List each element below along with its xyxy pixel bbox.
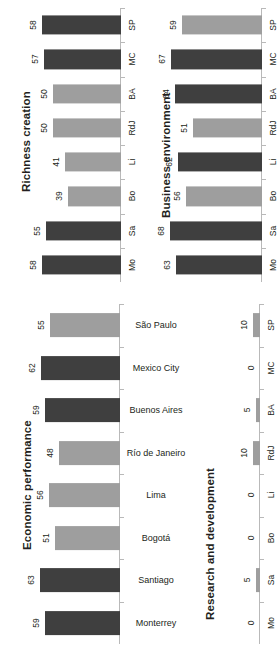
axis-tick xyxy=(262,8,266,9)
bar xyxy=(45,611,120,635)
category-label: Lima xyxy=(146,490,166,500)
bar-value-label: 58 xyxy=(28,20,38,29)
axis-tick xyxy=(120,304,124,305)
bar-value-label: 41 xyxy=(51,157,61,166)
bar xyxy=(45,398,120,422)
category-label: Bogotá xyxy=(142,533,171,543)
bar xyxy=(193,118,262,137)
bar-value-label: 59 xyxy=(31,618,41,627)
bar-value-label: 68 xyxy=(156,226,166,235)
category-label: BA xyxy=(127,88,137,99)
bar xyxy=(46,221,121,240)
axis-tick xyxy=(120,559,124,560)
axis-tick xyxy=(262,111,266,112)
axis-tick xyxy=(260,389,264,390)
panel-richness-creation: Richness creation 58SP57MC50BA50RdJ41Li3… xyxy=(0,0,139,290)
bar xyxy=(68,187,121,206)
bar xyxy=(42,16,121,35)
axis-tick xyxy=(120,602,124,603)
bar-value-label: 50 xyxy=(39,89,49,98)
axis-tick xyxy=(120,347,124,348)
category-label: Mo xyxy=(127,259,137,271)
bar xyxy=(42,255,121,274)
category-label: Bo xyxy=(127,191,137,201)
axis-tick xyxy=(260,474,264,475)
plot-business-environment: 59SP67MC64BA51RdJ62Li56Bo68Sa63Mo xyxy=(163,8,262,282)
axis-tick xyxy=(121,214,125,215)
axis-tick xyxy=(120,389,124,390)
axis-tick xyxy=(120,432,124,433)
category-label: Sa xyxy=(266,575,276,585)
category-label: BA xyxy=(266,405,276,416)
bar-row xyxy=(206,313,260,337)
category-label: Sa xyxy=(268,225,278,235)
bar xyxy=(65,153,121,172)
category-label: SP xyxy=(127,19,137,30)
category-label: Bo xyxy=(268,191,278,201)
bar-value-label: 56 xyxy=(172,192,182,201)
category-label: RdJ xyxy=(266,445,276,460)
bar xyxy=(40,568,120,592)
bar xyxy=(50,313,120,337)
axis-tick xyxy=(121,248,125,249)
bar-value-label: 10 xyxy=(239,448,249,457)
axis-tick xyxy=(121,145,125,146)
bar-value-label: 59 xyxy=(168,20,178,29)
bar-row xyxy=(27,441,120,465)
category-label: MC xyxy=(268,53,278,66)
bar-value-label: 63 xyxy=(26,576,36,585)
bar-row xyxy=(22,118,121,137)
bar-value-label: 64 xyxy=(161,89,171,98)
panel-research-and-development: Research and development 10SP0MC5BA10RdJ… xyxy=(190,290,278,663)
bar xyxy=(175,84,262,103)
bar xyxy=(253,441,260,465)
bar-row xyxy=(163,50,262,69)
bar-value-label: 55 xyxy=(32,226,42,235)
bar xyxy=(49,483,120,507)
category-label: RdJ xyxy=(127,120,137,135)
bar-value-label: 0 xyxy=(246,620,256,625)
bar-value-label: 10 xyxy=(239,321,249,330)
bar-row xyxy=(22,84,121,103)
axis-tick xyxy=(260,347,264,348)
bar xyxy=(44,50,121,69)
panel-business-environment: Business environment 59SP67MC64BA51RdJ62… xyxy=(139,0,278,290)
bar-row xyxy=(22,153,121,172)
bar xyxy=(182,16,262,35)
bar-value-label: 0 xyxy=(246,493,256,498)
bar xyxy=(256,568,260,592)
bar-row xyxy=(206,441,260,465)
category-label: Mo xyxy=(268,259,278,271)
axis-tick xyxy=(262,179,266,180)
bar-value-label: 63 xyxy=(162,260,172,269)
axis-tick xyxy=(121,179,125,180)
figure-root: Richness creation 58SP57MC50BA50RdJ41Li3… xyxy=(0,0,278,663)
axis-tick xyxy=(260,304,264,305)
axis-tick xyxy=(260,517,264,518)
axis-tick xyxy=(260,559,264,560)
bar-value-label: 62 xyxy=(27,363,37,372)
bar xyxy=(55,526,120,550)
category-label: SP xyxy=(266,320,276,331)
category-label: Monterrey xyxy=(136,618,177,628)
bar xyxy=(171,50,262,69)
category-label: Mo xyxy=(266,617,276,629)
axis-tick xyxy=(262,42,266,43)
axis-tick xyxy=(121,111,125,112)
bar-value-label: 51 xyxy=(41,533,51,542)
axis-tick xyxy=(120,517,124,518)
category-label: Bo xyxy=(266,533,276,543)
bar-row xyxy=(163,221,262,240)
bar xyxy=(53,118,121,137)
bar xyxy=(178,153,262,172)
bar-value-label: 48 xyxy=(45,448,55,457)
bar-row xyxy=(27,568,120,592)
bar-value-label: 51 xyxy=(179,123,189,132)
axis-tick xyxy=(260,602,264,603)
category-label: RdJ xyxy=(268,120,278,135)
bar-row xyxy=(163,84,262,103)
axis-tick xyxy=(260,432,264,433)
bar xyxy=(41,356,120,380)
category-label: São Paulo xyxy=(135,320,177,330)
bar xyxy=(256,398,260,422)
